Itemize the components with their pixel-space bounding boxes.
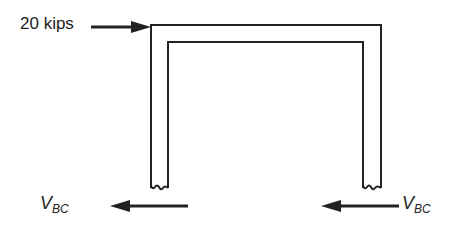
right-column-break: [363, 186, 381, 190]
portal-frame: [151, 25, 381, 189]
reaction-subscript: BC: [414, 202, 431, 216]
reaction-label-left: VBC: [40, 193, 69, 216]
reaction-arrow-left: [110, 200, 188, 212]
load-arrow: [91, 21, 151, 33]
reaction-subscript: BC: [52, 202, 69, 216]
reaction-symbol: V: [40, 193, 52, 213]
reaction-symbol: V: [402, 193, 414, 213]
reaction-label-right: VBC: [402, 193, 431, 216]
frame-outer-edge: [151, 25, 381, 188]
load-label: 20 kips: [20, 14, 74, 34]
frame-inner-edge: [168, 42, 363, 188]
left-column-break: [151, 186, 168, 190]
reaction-arrow-right: [321, 200, 399, 212]
